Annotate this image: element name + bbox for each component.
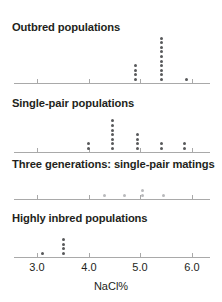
data-point (62, 252, 65, 255)
dot-plot-figure: Outbred populationsSingle-pair populatio… (0, 0, 222, 302)
data-point (183, 142, 186, 145)
x-tick-label-6.0: 6.0 (184, 261, 199, 273)
data-point (62, 238, 65, 241)
data-point (183, 147, 186, 150)
x-tick-3.0 (37, 79, 38, 84)
data-point (162, 194, 165, 197)
panel-title: Outbred populations (12, 21, 120, 34)
x-tick-labels: 3.04.05.06.0 (0, 261, 222, 275)
x-tick-5.0 (140, 253, 141, 258)
data-point (141, 189, 144, 192)
data-point (160, 73, 163, 76)
data-point (160, 41, 163, 44)
data-point (123, 194, 126, 197)
data-point (111, 142, 114, 145)
data-point (134, 64, 137, 67)
x-axis-title: NaCl% (0, 280, 222, 292)
data-point (103, 194, 106, 197)
data-point (134, 69, 137, 72)
data-point (111, 124, 114, 127)
x-tick-6.0 (192, 195, 193, 200)
data-point (160, 46, 163, 49)
data-point (160, 55, 163, 58)
panel-title: Single-pair populations (12, 97, 134, 110)
x-tick-label-3.0: 3.0 (29, 261, 44, 273)
x-tick-5.0 (140, 148, 141, 153)
data-point (160, 60, 163, 63)
data-point (160, 147, 163, 150)
x-tick-3.0 (37, 253, 38, 258)
x-tick-4.0 (89, 79, 90, 84)
data-point (160, 37, 163, 40)
x-tick-3.0 (37, 148, 38, 153)
data-point (134, 73, 137, 76)
data-point (111, 133, 114, 136)
axis-line (14, 152, 210, 153)
x-tick-5.0 (140, 79, 141, 84)
data-point (111, 119, 114, 122)
axis-line (14, 257, 210, 258)
data-point (41, 252, 44, 255)
data-point (160, 69, 163, 72)
data-point (134, 78, 137, 81)
data-point (160, 78, 163, 81)
x-tick-4.0 (89, 195, 90, 200)
data-point (136, 147, 139, 150)
x-tick-6.0 (192, 253, 193, 258)
data-point (62, 243, 65, 246)
x-tick-3.0 (37, 195, 38, 200)
x-tick-label-4.0: 4.0 (81, 261, 96, 273)
axis-line (14, 199, 210, 200)
data-point (111, 129, 114, 132)
axis-line (14, 83, 210, 84)
panel-title: Three generations: single-pair matings (12, 158, 215, 171)
data-point (136, 133, 139, 136)
data-point (160, 50, 163, 53)
panel-title: Highly inbred populations (12, 212, 147, 225)
data-point (185, 78, 188, 81)
data-point (136, 142, 139, 145)
x-tick-4.0 (89, 253, 90, 258)
data-point (111, 147, 114, 150)
data-point (136, 138, 139, 141)
data-point (87, 142, 90, 145)
data-point (141, 194, 144, 197)
data-point (111, 138, 114, 141)
x-tick-label-5.0: 5.0 (132, 261, 147, 273)
x-tick-6.0 (192, 148, 193, 153)
data-point (62, 247, 65, 250)
x-tick-6.0 (192, 79, 193, 84)
data-point (160, 142, 163, 145)
data-point (160, 64, 163, 67)
